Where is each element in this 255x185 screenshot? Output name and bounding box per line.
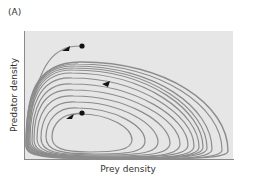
trajectory-loops [26,46,228,159]
x-axis-line [24,159,234,160]
x-axis-label: Prey density [100,164,156,174]
y-axis-label: Predator density [9,58,19,132]
trajectory-plot [0,0,255,185]
inner-start-point [79,110,84,115]
arrow-icon-outer [62,46,70,51]
outer-start-point [79,43,84,48]
y-axis-line [24,31,25,160]
